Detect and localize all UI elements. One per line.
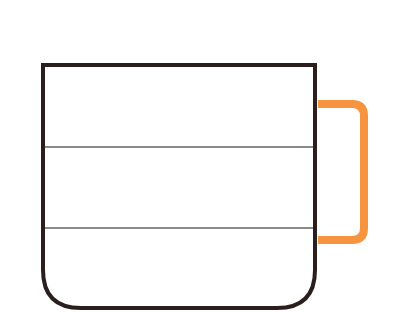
mug-handle — [318, 104, 364, 240]
mug-svg — [0, 0, 395, 313]
mug-body — [43, 65, 315, 308]
mug-diagram — [0, 0, 395, 313]
